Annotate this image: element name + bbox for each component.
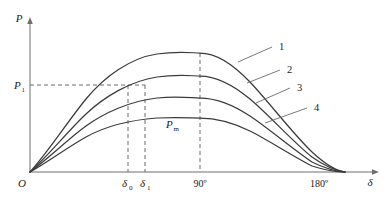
p1-label: P 1	[13, 79, 26, 94]
leader-line-1	[238, 47, 272, 62]
axes-group	[27, 17, 379, 175]
curve-label-4: 4	[314, 102, 320, 113]
delta1-label-main: δ	[140, 177, 146, 189]
p1-label-subscript: 1	[22, 86, 26, 94]
pm-label: P m	[165, 118, 180, 133]
curve-1	[30, 52, 345, 172]
origin-label: O	[18, 177, 26, 189]
p1-label-main: P	[13, 79, 21, 91]
guide-lines-group	[30, 53, 200, 172]
delta0-tick-label: δ 0	[122, 177, 133, 192]
x-axis-label: δ	[367, 176, 373, 188]
power-angle-chart: P δ O P 1 P m δ 0 δ 1 90º 180º 1 2 3 4	[0, 0, 390, 211]
x-axis-arrow-icon	[372, 169, 379, 174]
pm-label-subscript: m	[174, 125, 180, 133]
tick-label-90: 90º	[193, 178, 206, 189]
curves-group	[30, 52, 345, 172]
tick-label-180: 180º	[310, 178, 328, 189]
curve-3	[30, 97, 345, 172]
y-axis-label: P	[15, 12, 23, 24]
delta1-label-subscript: 1	[147, 184, 151, 192]
leader-line-4	[265, 108, 307, 123]
pm-label-main: P	[165, 118, 173, 130]
leader-line-3	[256, 88, 290, 103]
curve-label-3: 3	[297, 82, 302, 93]
curve-label-2: 2	[287, 64, 292, 75]
curve-label-1: 1	[279, 41, 284, 52]
delta0-label-subscript: 0	[129, 184, 133, 192]
delta1-tick-label: δ 1	[140, 177, 151, 192]
leader-line-2	[247, 70, 280, 83]
y-axis-arrow-icon	[27, 17, 33, 24]
delta0-label-main: δ	[122, 177, 128, 189]
